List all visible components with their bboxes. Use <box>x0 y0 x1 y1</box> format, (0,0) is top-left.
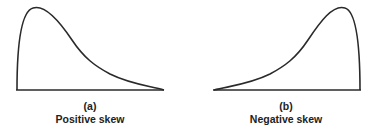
negative-skew-curve <box>214 7 360 90</box>
figure-b-label: (b) Negative skew <box>206 100 366 126</box>
figure-a-letter: (a) <box>10 100 170 113</box>
figure-a-caption: Positive skew <box>10 113 170 126</box>
positive-skew-figure <box>16 7 164 90</box>
figure-b-letter: (b) <box>206 100 366 113</box>
negative-skew-figure <box>213 7 361 90</box>
figure-b-caption: Negative skew <box>206 113 366 126</box>
positive-skew-curve <box>17 7 164 90</box>
figure-a-label: (a) Positive skew <box>10 100 170 126</box>
